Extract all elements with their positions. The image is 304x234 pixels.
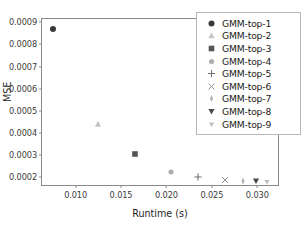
data-point-gmm-top-6 (220, 175, 231, 186)
legend-item-label: GMM-top-4 (222, 56, 271, 67)
legend-marker-icon (200, 30, 222, 41)
data-point-gmm-top-5 (193, 172, 204, 183)
legend-marker-icon (200, 93, 222, 104)
y-tick-label: 0.0004 (9, 128, 42, 138)
y-tick-label: 0.0006 (9, 84, 42, 94)
legend-marker-icon (200, 18, 222, 29)
legend-item-label: GMM-top-5 (222, 68, 271, 79)
legend-item-label: GMM-top-1 (222, 18, 271, 29)
legend-item-gmm-top-5[interactable]: GMM-top-5 (200, 67, 297, 80)
legend-item-gmm-top-9[interactable]: GMM-top-9 (200, 118, 297, 131)
legend: GMM-top-1GMM-top-2GMM-top-3GMM-top-4GMM-… (196, 12, 301, 135)
x-tick-label: 0.025 (200, 185, 223, 200)
legend-item-label: GMM-top-6 (222, 81, 271, 92)
x-tick-label: 0.030 (246, 185, 269, 200)
legend-item-gmm-top-3[interactable]: GMM-top-3 (200, 42, 297, 55)
legend-marker-icon (200, 106, 222, 117)
y-tick-label: 0.0009 (9, 17, 42, 27)
legend-item-gmm-top-4[interactable]: GMM-top-4 (200, 55, 297, 68)
y-tick-label: 0.0007 (9, 62, 42, 72)
legend-item-gmm-top-8[interactable]: GMM-top-8 (200, 105, 297, 118)
scatter-chart-figure: MSE Runtime (s) 0.00020.00030.00040.0005… (0, 0, 304, 234)
x-tick-label: 0.020 (155, 185, 178, 200)
data-point-gmm-top-1 (48, 24, 59, 35)
legend-item-gmm-top-7[interactable]: GMM-top-7 (200, 93, 297, 106)
x-tick-label: 0.015 (110, 185, 133, 200)
data-point-gmm-top-3 (129, 149, 140, 160)
legend-item-gmm-top-2[interactable]: GMM-top-2 (200, 30, 297, 43)
y-tick-label: 0.0002 (9, 172, 42, 182)
x-axis-label: Runtime (s) (41, 208, 279, 219)
y-tick-label: 0.0003 (9, 150, 42, 160)
legend-marker-icon (200, 43, 222, 54)
legend-marker-icon (200, 56, 222, 67)
legend-marker-icon (200, 119, 222, 130)
legend-item-label: GMM-top-3 (222, 43, 271, 54)
legend-item-label: GMM-top-2 (222, 30, 271, 41)
y-tick-label: 0.0008 (9, 39, 42, 49)
legend-item-gmm-top-6[interactable]: GMM-top-6 (200, 80, 297, 93)
legend-item-label: GMM-top-7 (222, 93, 271, 104)
legend-marker-icon (200, 68, 222, 79)
y-tick-label: 0.0005 (9, 106, 42, 116)
legend-item-label: GMM-top-8 (222, 106, 271, 117)
data-point-gmm-top-4 (166, 167, 177, 178)
legend-item-gmm-top-1[interactable]: GMM-top-1 (200, 17, 297, 30)
legend-item-label: GMM-top-9 (222, 119, 271, 130)
data-point-gmm-top-2 (92, 118, 103, 129)
x-tick-label: 0.010 (64, 185, 87, 200)
legend-marker-icon (200, 81, 222, 92)
